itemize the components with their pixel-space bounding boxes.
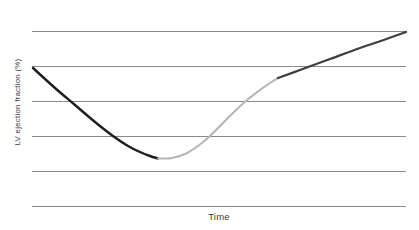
y-axis-label: LV ejection fraction (%) bbox=[13, 59, 22, 146]
series-initial-decline bbox=[33, 68, 158, 159]
x-axis-label: Time bbox=[208, 211, 230, 222]
chart-canvas bbox=[0, 0, 419, 230]
series-early-recovery bbox=[158, 78, 278, 159]
series-late-recovery bbox=[278, 32, 406, 78]
lvef-time-chart: LV ejection fraction (%) Time bbox=[0, 0, 419, 230]
